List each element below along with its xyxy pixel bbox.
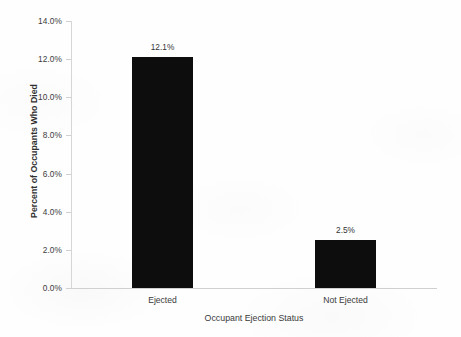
y-axis-tick <box>66 59 71 60</box>
y-axis-tick-label: 6.0% <box>18 169 62 179</box>
x-axis-title: Occupant Ejection Status <box>71 313 437 323</box>
y-axis-tick-label: 12.0% <box>18 54 62 64</box>
y-axis-title: Percent of Occupants Who Died <box>29 17 39 285</box>
y-axis-tick-label: 8.0% <box>18 130 62 140</box>
y-axis-line <box>71 21 72 289</box>
y-axis-tick-label: 4.0% <box>18 207 62 217</box>
y-axis-tick <box>66 288 71 289</box>
bar[interactable] <box>132 57 193 288</box>
x-axis-category-label: Ejected <box>103 295 223 305</box>
bar-chart: 0.0%2.0%4.0%6.0%8.0%10.0%12.0%14.0% 12.1… <box>0 0 461 337</box>
y-axis-tick-label: 14.0% <box>18 16 62 26</box>
bar-value-label: 2.5% <box>306 225 386 235</box>
bar[interactable] <box>315 240 376 288</box>
y-axis-tick <box>66 21 71 22</box>
y-axis-tick <box>66 250 71 251</box>
y-axis-tick <box>66 174 71 175</box>
paper-texture <box>0 0 461 337</box>
y-axis-tick <box>66 97 71 98</box>
y-axis-tick-label: 10.0% <box>18 92 62 102</box>
y-axis-tick <box>66 135 71 136</box>
bar-value-label: 12.1% <box>123 42 203 52</box>
y-axis-tick-label: 0.0% <box>18 283 62 293</box>
x-axis-line <box>71 288 437 289</box>
y-axis-tick <box>66 212 71 213</box>
x-axis-category-label: Not Ejected <box>286 295 406 305</box>
y-axis-tick-label: 2.0% <box>18 245 62 255</box>
